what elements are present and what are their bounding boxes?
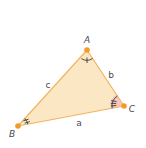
- vertex-a-label: A: [83, 35, 90, 45]
- vertex-b-label: B: [9, 129, 15, 139]
- side-c-label: c: [46, 80, 51, 90]
- vertex-c-label: C: [129, 104, 136, 114]
- side-a-label: a: [76, 118, 82, 128]
- vertex-b-dot: [15, 123, 21, 129]
- side-b-label: b: [108, 70, 114, 80]
- triangle-diagram: A B C a b c: [0, 0, 146, 148]
- vertex-a-dot: [84, 47, 90, 53]
- triangle-fill: [18, 50, 124, 126]
- vertex-c-dot: [121, 103, 127, 109]
